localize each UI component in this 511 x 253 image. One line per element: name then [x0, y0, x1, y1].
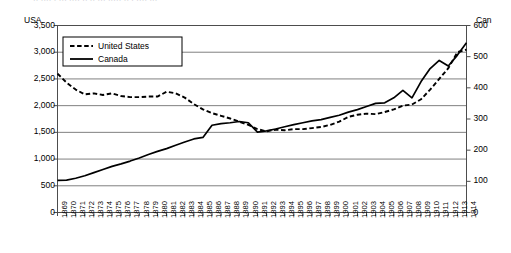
left-axis-tick-0: 0 [50, 208, 55, 217]
x-axis-tick-1891: 1891 [261, 201, 269, 218]
x-axis-tick-1874: 1874 [106, 201, 114, 218]
cropped-caption-text: ·· ···· · ··· ···· ·· ·· ··· ····· ·· · … [33, 0, 433, 7]
left-axis-tick-3000: 3,000 [34, 47, 55, 56]
x-axis-tick-1881: 1881 [170, 201, 178, 218]
gridlines [58, 52, 467, 186]
left-axis-tick-2000: 2,000 [34, 101, 55, 110]
left-axis-tick-3500: 3,500 [34, 21, 55, 30]
x-axis-tick-1902: 1902 [361, 201, 369, 218]
x-axis-tick-1889: 1889 [242, 201, 250, 218]
x-axis-tick-1877: 1877 [133, 201, 141, 218]
right-axis-tick-600: 600 [474, 21, 488, 30]
x-axis-tick-1908: 1908 [415, 201, 423, 218]
legend-label-united-states: United States [98, 41, 149, 51]
x-axis-tick-1892: 1892 [270, 201, 278, 218]
left-axis-tick-2500: 2,500 [34, 74, 55, 83]
x-axis-tick-1905: 1905 [388, 201, 396, 218]
x-axis-tick-1869: 1869 [61, 201, 69, 218]
x-axis-tick-1884: 1884 [197, 201, 205, 218]
legend-box: United StatesCanada [63, 37, 182, 66]
x-axis-tick-1883: 1883 [188, 201, 196, 218]
x-axis-tick-1900: 1900 [342, 201, 350, 218]
x-axis-tick-1903: 1903 [370, 201, 378, 218]
x-axis-tick-1894: 1894 [288, 201, 296, 218]
x-axis-tick-1879: 1879 [152, 201, 160, 218]
x-axis-tick-1911: 1911 [442, 201, 450, 217]
x-axis-tick-1913: 1913 [461, 201, 469, 218]
x-axis-tick-1893: 1893 [279, 201, 287, 218]
x-axis-tick-1912: 1912 [452, 201, 460, 218]
x-axis-tick-1914: 1914 [470, 201, 478, 218]
chart-container: ·· ···· · ··· ···· ·· ·· ··· ····· ·· · … [0, 0, 511, 253]
x-axis-tick-1890: 1890 [252, 201, 260, 218]
left-axis-tick-1000: 1,000 [34, 154, 55, 163]
x-axis-tick-1885: 1885 [206, 201, 214, 218]
x-axis-tick-1904: 1904 [379, 201, 387, 218]
x-axis-tick-1895: 1895 [297, 201, 305, 218]
x-axis-tick-1882: 1882 [179, 201, 187, 218]
x-axis-tick-1896: 1896 [306, 201, 314, 218]
right-axis-tick-200: 200 [474, 145, 488, 154]
x-axis-tick-1886: 1886 [215, 201, 223, 218]
legend-label-canada: Canada [98, 54, 128, 64]
x-axis-tick-1897: 1897 [315, 201, 323, 218]
left-axis-tick-1500: 1,500 [34, 127, 55, 136]
right-axis-tick-100: 100 [474, 176, 488, 185]
x-axis-tick-1907: 1907 [406, 201, 414, 218]
right-axis-tick-400: 400 [474, 83, 488, 92]
left-axis-tick-500: 500 [41, 181, 55, 190]
x-axis-tick-1906: 1906 [397, 201, 405, 218]
x-axis-tick-1870: 1870 [70, 201, 78, 218]
x-axis-tick-1872: 1872 [88, 201, 96, 218]
right-axis-tick-300: 300 [474, 114, 488, 123]
x-axis-tick-1880: 1880 [161, 201, 169, 218]
x-axis-tick-1878: 1878 [143, 201, 151, 218]
x-axis-tick-1871: 1871 [79, 201, 87, 218]
x-axis-tick-1901: 1901 [352, 201, 360, 218]
right-axis-tick-500: 500 [474, 52, 488, 61]
x-axis-tick-1873: 1873 [97, 201, 105, 218]
